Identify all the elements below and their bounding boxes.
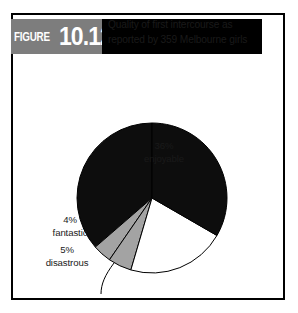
- figure-title: Quality of first intercourse as reported…: [108, 17, 268, 47]
- pie-label-enjoyable-text: enjoyable: [121, 153, 207, 166]
- figure-title-line-1: Quality of first intercourse as: [108, 17, 268, 32]
- figure-badge: FIGURE 10.12: [11, 19, 102, 54]
- pie-label-enjoyable-percent: 36%: [121, 140, 207, 153]
- pie-label-disastrous-percent: 5%: [31, 244, 103, 257]
- pie-label-disastrous: 5% disastrous: [31, 244, 103, 269]
- pie-chart-area: 36% enjoyable 4% fantastic 5% disastrous…: [13, 56, 283, 298]
- figure-badge-inner: FIGURE 10.12: [11, 19, 102, 54]
- pie-label-enjoyable: 36% enjoyable: [121, 140, 207, 165]
- pie-label-fantastic-percent: 4%: [37, 214, 103, 227]
- pie-label-fantastic-text: fantastic: [37, 227, 103, 240]
- figure-badge-number: 10.12: [59, 24, 102, 49]
- pie-label-disastrous-text: disastrous: [31, 257, 103, 270]
- figure-badge-word: FIGURE: [14, 30, 50, 44]
- figure-title-line-2: reported by 359 Melbourne girls: [108, 32, 268, 47]
- figure-container: FIGURE 10.12 Quality of first intercours…: [0, 0, 298, 313]
- pie-label-fantastic: 4% fantastic: [37, 214, 103, 239]
